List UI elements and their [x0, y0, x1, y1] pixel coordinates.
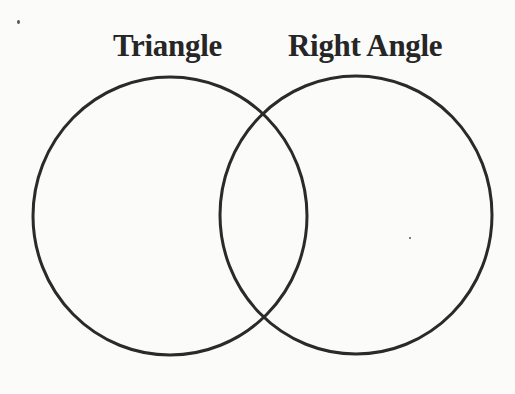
circle-triangle	[33, 77, 307, 355]
venn-circles	[0, 0, 515, 394]
venn-diagram-canvas: Triangle Right Angle	[0, 0, 515, 394]
scan-speck	[409, 237, 411, 239]
circle-right-angle	[220, 76, 492, 354]
scan-speck	[17, 20, 20, 24]
